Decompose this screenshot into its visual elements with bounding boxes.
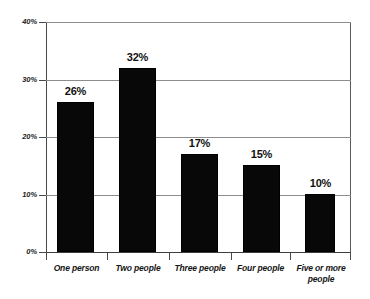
y-axis-label-0: 0% <box>3 247 37 256</box>
bar-five-or-more-people <box>305 194 335 252</box>
y-axis-label-40: 40% <box>3 17 37 26</box>
y-tick-30 <box>39 80 46 81</box>
y-tick-0 <box>39 252 46 253</box>
y-tick-10 <box>39 195 46 196</box>
value-label-two-people: 32% <box>117 51 158 63</box>
bar-four-people <box>243 165 280 252</box>
x-axis-label-three-people-line-1: Three people <box>167 263 233 274</box>
bar-chart: 40% 30% 20% 10% 0% 26% 32% 17% 15% 10% O… <box>0 0 370 299</box>
gridline-40 <box>46 22 351 23</box>
x-axis-label-three-people: Three people <box>167 263 233 274</box>
x-axis-label-two-people-line-1: Two people <box>107 263 169 274</box>
x-tick-3 <box>231 253 232 260</box>
value-label-three-people: 17% <box>179 137 220 149</box>
x-tick-start <box>46 253 47 260</box>
value-label-four-people: 15% <box>241 148 282 160</box>
x-axis-label-one-person-line-1: One person <box>46 263 107 274</box>
x-tick-end <box>350 253 351 260</box>
bar-three-people <box>181 154 218 252</box>
y-axis-label-20: 20% <box>3 132 37 141</box>
x-axis-label-four-people-line-1: Four people <box>231 263 290 274</box>
x-axis-label-five-or-more-people-line-1: Five or more <box>288 263 354 274</box>
bar-one-person <box>57 102 94 252</box>
x-tick-1 <box>107 253 108 260</box>
x-axis-label-five-or-more-people: Five or more people <box>288 263 354 284</box>
value-label-one-person: 26% <box>55 85 96 97</box>
bar-two-people <box>119 68 156 252</box>
y-axis-label-30: 30% <box>3 75 37 84</box>
x-axis-label-four-people: Four people <box>231 263 290 274</box>
x-axis-label-one-person: One person <box>46 263 107 274</box>
y-tick-40 <box>39 22 46 23</box>
y-axis-label-10: 10% <box>3 190 37 199</box>
value-label-five-or-more-people: 10% <box>300 177 341 189</box>
x-tick-4 <box>290 253 291 260</box>
x-axis-label-two-people: Two people <box>107 263 169 274</box>
gridline-30 <box>46 80 351 81</box>
x-tick-2 <box>169 253 170 260</box>
y-tick-20 <box>39 137 46 138</box>
x-axis-label-five-or-more-people-line-2: people <box>288 274 354 285</box>
